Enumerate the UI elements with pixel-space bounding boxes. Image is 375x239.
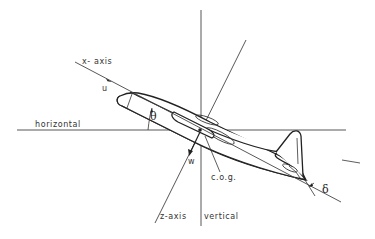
x-axis-label: x- axis	[82, 57, 112, 66]
aircraft-axes-diagram: x- axis u horizontal θ w c.o.g. z-axis v…	[0, 0, 375, 239]
theta-label: θ	[150, 110, 157, 123]
cog-point	[198, 128, 202, 132]
vertical-label: vertical	[204, 212, 239, 221]
aircraft-silhouette	[117, 92, 306, 180]
x-axis-line	[75, 62, 341, 202]
w-label: w	[188, 157, 195, 166]
u-label: u	[102, 84, 108, 93]
delta-label: δ	[322, 183, 329, 196]
cog-label: c.o.g.	[211, 173, 236, 182]
z-axis-label: z-axis	[160, 212, 187, 221]
horizontal-label: horizontal	[35, 120, 81, 129]
